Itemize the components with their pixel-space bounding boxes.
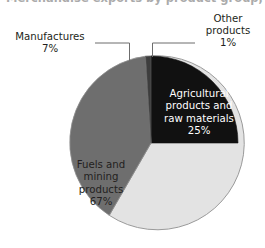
slice-callout-other-products: Other products 1% — [196, 13, 260, 50]
slice-label-fuels-and-mining-products: Fuels and mining products 67% — [58, 159, 144, 209]
pie-chart-figure: Merchandise exports by product group, 20… — [0, 0, 265, 248]
slice-callout-manufactures: Manufactures 7% — [6, 31, 94, 55]
slice-label-agricultural-products-and-raw-materials: Agricultural products and raw materials … — [152, 88, 246, 138]
leader-line-other-products — [153, 43, 196, 57]
